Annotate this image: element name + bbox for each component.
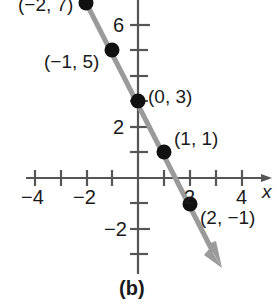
data-point — [131, 94, 146, 109]
data-point — [105, 43, 120, 58]
point-label-minus2-7: (−2, 7) — [18, 0, 73, 14]
panel-label: (b) — [119, 278, 145, 298]
point-label-1-1: (1, 1) — [174, 129, 218, 148]
point-label-minus1-5: (−1, 5) — [44, 52, 99, 71]
x-tick-label-minus-2: −2 — [73, 187, 96, 207]
x-tick-label-2: 2 — [184, 187, 195, 207]
point-label-0-3: (0, 3) — [148, 87, 192, 106]
y-tick-label-6: 6 — [113, 15, 124, 35]
figure-panel-b: 6 2 −2 −4 −2 2 4 x (−2, 7) (−1, 5) (0, 3… — [0, 0, 280, 305]
data-point — [157, 145, 172, 160]
x-axis — [26, 174, 272, 182]
x-tick-label-4: 4 — [236, 187, 247, 207]
x-axis-label: x — [262, 182, 272, 201]
x-tick-label-minus-4: −4 — [21, 187, 44, 207]
coordinate-plane — [0, 0, 280, 305]
y-tick-label-minus-2: −2 — [104, 219, 127, 239]
point-label-2-minus1: (2, −1) — [200, 208, 255, 227]
y-axis-ticks — [130, 25, 150, 254]
y-tick-label-2: 2 — [113, 117, 124, 137]
